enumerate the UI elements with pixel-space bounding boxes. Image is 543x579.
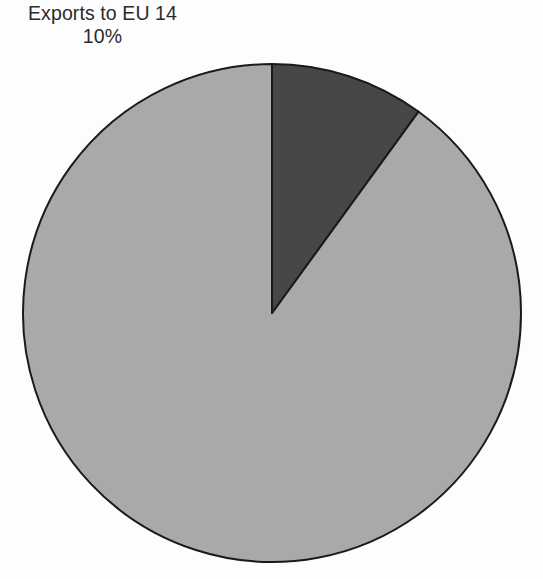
slice-annotation: Exports to EU 14 10% [0, 2, 205, 48]
slice-annotation-value: 10% [0, 25, 205, 48]
pie-chart-figure: Exports to EU 14 10% [0, 0, 543, 579]
pie-chart-svg [0, 0, 543, 579]
pie-slices [23, 64, 521, 562]
slice-annotation-title: Exports to EU 14 [0, 2, 205, 25]
